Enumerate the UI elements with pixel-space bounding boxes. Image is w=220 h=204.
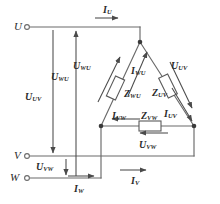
label-current-iuv: IUV xyxy=(164,108,177,119)
node-right xyxy=(192,124,197,129)
terminal-label-v: V xyxy=(14,149,21,161)
sub-uuv: UV xyxy=(32,95,41,102)
sub-iwu: WU xyxy=(135,69,145,76)
label-voltage-uvw-phase: UVW xyxy=(139,139,156,150)
sub-iv: V xyxy=(135,179,139,186)
sub-iu: U xyxy=(107,8,112,15)
node-apex xyxy=(138,40,143,45)
terminal-dot-w xyxy=(25,176,30,181)
terminal-label-u: U xyxy=(14,20,22,32)
label-current-iw: IW xyxy=(74,183,84,194)
sub-uvw-p: VW xyxy=(146,143,156,150)
label-voltage-uwu: UWU xyxy=(51,71,69,82)
sub-uuv-p: UV xyxy=(178,64,187,71)
sub-iw: W xyxy=(78,187,84,194)
sub-uvw: VW xyxy=(43,165,53,172)
terminal-dot-v xyxy=(25,154,30,159)
label-voltage-uuv: UUV xyxy=(25,91,41,102)
sub-zuv: UV xyxy=(158,91,167,98)
sub-uwu-p: WU xyxy=(80,64,90,71)
label-current-iwu: IWU xyxy=(131,65,145,76)
label-current-iu: IU xyxy=(103,4,112,15)
terminal-dot-u xyxy=(25,25,30,30)
label-voltage-uwu-phase: UWU xyxy=(73,60,91,71)
label-impedance-zuv: ZUV xyxy=(152,87,167,98)
resistor-zvw xyxy=(139,121,161,131)
label-impedance-zvw: ZVW xyxy=(141,110,157,121)
label-impedance-zwu: ZWU xyxy=(124,88,141,99)
label-voltage-uuv-phase: UUV xyxy=(171,60,187,71)
sub-iuv: UV xyxy=(168,112,177,119)
label-current-iv: IV xyxy=(131,175,139,186)
sub-ivw: VW xyxy=(116,114,126,121)
sub-zwu: WU xyxy=(130,92,140,99)
label-voltage-uvw: UVW xyxy=(36,161,53,172)
circuit-schematic-svg xyxy=(0,0,220,204)
node-left xyxy=(99,124,104,129)
sub-uwu: WU xyxy=(58,75,68,82)
label-current-ivw: IVW xyxy=(112,110,126,121)
circuit-diagram: U V W IU IV IW UUV UWU UVW UWU UUV UVW I… xyxy=(0,0,220,204)
sub-zvw: VW xyxy=(147,114,157,121)
terminal-label-w: W xyxy=(10,171,19,183)
